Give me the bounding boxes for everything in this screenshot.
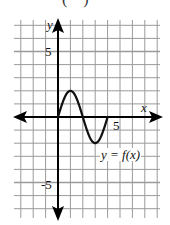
x-axis-label: x xyxy=(141,101,147,114)
grid-lines xyxy=(14,20,160,218)
y-tick-label-5: 5 xyxy=(45,45,52,58)
y-tick-label-neg5: -5 xyxy=(41,178,52,191)
y-axis xyxy=(52,18,64,221)
x-tick-label-5: 5 xyxy=(113,119,120,132)
y-axis-label: y xyxy=(47,18,53,31)
curve-label: y = f(x) xyxy=(100,148,141,161)
